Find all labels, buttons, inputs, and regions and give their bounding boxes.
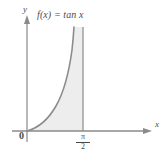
- pi-over-two-tick-label: π 2: [76, 133, 90, 152]
- y-axis-label: y: [23, 5, 27, 14]
- shaded-area-under-curve: [27, 27, 83, 131]
- origin-tick-label: 0: [19, 131, 24, 141]
- x-axis-arrowhead-icon: [143, 128, 152, 134]
- x-axis-label: x: [155, 120, 159, 129]
- tangent-function-figure: f(x) = tan x y x 0 π 2: [0, 0, 167, 163]
- fraction-numerator: π: [76, 133, 90, 141]
- y-axis-arrowhead-icon: [24, 15, 30, 24]
- function-label: f(x) = tan x: [37, 10, 84, 20]
- fraction-denominator: 2: [76, 143, 90, 151]
